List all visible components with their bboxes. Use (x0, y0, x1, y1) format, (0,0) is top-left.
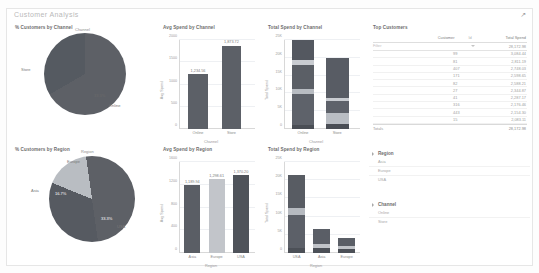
top-customers-table[interactable]: Customer Id Total Spend Filter 28,172.98… (373, 35, 527, 141)
stack-segment (338, 249, 355, 253)
table-filter-row[interactable]: Filter 28,172.98 (373, 43, 527, 51)
pie-legend-title: Channel (75, 27, 90, 32)
y-tick: 1000 (169, 79, 177, 83)
table-row[interactable]: 41 2,287.17 (373, 95, 527, 102)
filter-card-channel: Channel Online Store (369, 200, 530, 226)
plot-area: 0 400 800 1200 1600 1,189.94 1,298.61 (179, 162, 255, 253)
stacked-bar-total-spend-channel[interactable]: Total Spend Channel 0 (264, 34, 368, 145)
x-tick: USA (237, 255, 245, 259)
pie-chart-region[interactable]: Region Europe Asia USA 16.7% 33.3% (11, 147, 159, 269)
x-tick: Store (333, 131, 342, 135)
plot-area: 0 5K 10K 15K 20K 25K (284, 40, 360, 129)
panel-top-customers: Top Customers Customer Id Total Spend Fi… (369, 25, 530, 143)
table-header-row: Customer Id Total Spend (373, 35, 527, 43)
x-tick: Europe (341, 255, 353, 259)
cell-total-spend: 3,084.44 (511, 51, 526, 56)
stack-segment (326, 124, 349, 129)
pie-label-usa: USA (117, 224, 125, 229)
bar-europe[interactable] (209, 179, 225, 253)
cell-total-spend: 2,811.19 (511, 59, 526, 64)
table-row[interactable]: 81 2,811.19 (373, 58, 527, 65)
cell-id: 171 (453, 73, 460, 78)
stack-segment (326, 101, 349, 113)
stack-segment (313, 244, 330, 248)
bar-chart-avg-spend-region[interactable]: Avg Spend Region 0 400 (159, 156, 263, 269)
chevron-down-icon[interactable] (471, 45, 475, 47)
y-axis-label: Avg Spend (160, 80, 164, 99)
filter-card-header-channel[interactable]: Channel (369, 200, 530, 209)
y-tick: 1500 (169, 56, 177, 60)
stack-europe[interactable] (338, 238, 355, 253)
panel-pct-customers-by-region: % Customers by Region Region Europe Asia… (11, 145, 159, 267)
stack-segment (288, 215, 305, 248)
bar-online[interactable] (188, 74, 208, 129)
bar-chart-avg-spend-channel[interactable]: Avg Spend Channel 0 500 (159, 34, 263, 145)
column-header-customer[interactable]: Customer (438, 35, 455, 40)
bar-asia[interactable] (184, 185, 200, 253)
chevron-right-icon[interactable] (372, 152, 374, 156)
filter-item-asia[interactable]: Asia (369, 158, 530, 167)
cell-total-spend: 2,344.87 (511, 88, 526, 93)
filter-item-online[interactable]: Online (369, 209, 530, 218)
stacked-bar-total-spend-region[interactable]: Total Spend Region 0 (264, 156, 368, 269)
table-row[interactable]: 15 2,083.11 (373, 117, 527, 124)
cell-id: 15 (453, 117, 457, 122)
filter-input[interactable]: Filter (373, 44, 381, 48)
cell-id: 407 (453, 66, 460, 71)
chevron-right-icon[interactable] (372, 203, 374, 207)
cell-id: 316 (453, 102, 460, 107)
stack-segment (292, 60, 315, 65)
table-row[interactable]: 27 2,344.87 (373, 87, 527, 94)
stack-usa[interactable] (288, 175, 305, 253)
pie-value-usa: 33.3% (101, 216, 112, 221)
filter-item-usa[interactable]: USA (369, 176, 530, 184)
stack-online[interactable] (292, 40, 315, 129)
pie-label-store: Store (21, 67, 31, 72)
x-tick: Store (227, 131, 236, 135)
x-tick: USA (293, 255, 301, 259)
table-row[interactable]: 171 2,598.65 (373, 73, 527, 80)
column-header-id[interactable]: Id (468, 35, 471, 40)
y-tick: 800 (171, 202, 177, 206)
table-row[interactable]: 99 3,084.44 (373, 51, 527, 58)
table-row[interactable]: 82 2,588.21 (373, 80, 527, 87)
cell-total-spend: 2,287.17 (511, 95, 526, 100)
filter-item-europe[interactable]: Europe (369, 167, 530, 176)
filter-item-store[interactable]: Store (369, 218, 530, 226)
bar-store[interactable] (222, 46, 242, 129)
filter-card-header-region[interactable]: Region (369, 149, 530, 158)
panel-avg-spend-by-region: Avg Spend by Region Avg Spend Region (159, 145, 263, 267)
column-total-spend: Total Spend by Channel Total Spend Chann… (264, 23, 368, 265)
column-side-rail: Top Customers Customer Id Total Spend Fi… (369, 23, 530, 265)
y-tick: 1200 (169, 179, 177, 183)
dashboard-frame: Customer Analysis ↗ % Customers by Chann… (6, 8, 533, 266)
x-tick: Asia (189, 255, 196, 259)
y-tick: 20K (276, 52, 282, 56)
footer-total-value: 28,172.98 (509, 126, 526, 131)
pie-label-online: Online (109, 103, 121, 108)
x-axis-label: Channel (309, 140, 323, 144)
panel-title: Total Spend by Region (268, 147, 368, 152)
cell-total-spend: 2,598.65 (511, 73, 526, 78)
stack-segment (338, 238, 355, 246)
pie-legend-title: Region (81, 149, 94, 154)
bar-value-europe: 1,298.61 (209, 174, 224, 178)
dashboard-app: Customer Analysis ↗ % Customers by Chann… (0, 0, 539, 273)
stack-store[interactable] (326, 58, 349, 129)
stack-segment (313, 229, 330, 244)
expand-icon[interactable]: ↗ (520, 11, 526, 19)
pie-slices[interactable] (49, 156, 135, 242)
stack-segment (292, 89, 315, 94)
panel-total-spend-by-channel: Total Spend by Channel Total Spend Chann… (264, 23, 368, 143)
y-axis-label: Total Spend (265, 202, 269, 222)
y-tick: 0 (175, 123, 177, 127)
table-row[interactable]: 443 2,154.30 (373, 109, 527, 116)
table-row[interactable]: 407 2,748.03 (373, 66, 527, 73)
column-header-total-spend[interactable]: Total Spend (505, 35, 526, 40)
stack-asia[interactable] (313, 229, 330, 253)
bar-usa[interactable] (233, 175, 249, 253)
dashboard-board: % Customers by Channel Channel Store Onl… (7, 23, 532, 265)
table-row[interactable]: 316 2,176.46 (373, 102, 527, 109)
pie-value-europe: 16.7% (55, 191, 66, 196)
pie-chart-channel[interactable]: Channel Store Online 33.3% (11, 25, 159, 145)
